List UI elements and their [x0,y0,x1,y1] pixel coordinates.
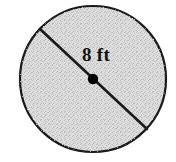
circle-diagram-canvas [0,0,176,162]
center-point-dot [88,74,98,84]
geometry-figure: 8 ft [0,0,176,162]
diameter-measurement-label: 8 ft [82,45,110,64]
